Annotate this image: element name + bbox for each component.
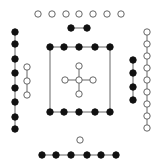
white-dot <box>144 53 150 59</box>
black-dot <box>12 56 18 62</box>
black-dot <box>12 85 18 91</box>
black-dot <box>12 29 18 35</box>
white-dot <box>24 64 30 70</box>
black-dot <box>39 152 45 158</box>
black-dot <box>12 41 18 47</box>
black-dot <box>130 84 136 90</box>
white-dot <box>35 11 41 17</box>
black-dot <box>107 109 113 115</box>
white-dot <box>76 63 82 69</box>
white-dot <box>24 92 30 98</box>
black-dot <box>68 152 74 158</box>
black-dot <box>61 44 67 50</box>
white-dot <box>63 11 69 17</box>
white-dot <box>144 89 150 95</box>
white-dot <box>144 77 150 83</box>
black-dot <box>92 109 98 115</box>
white-dot <box>76 11 82 17</box>
white-dot <box>77 137 83 143</box>
black-dot <box>130 70 136 76</box>
black-dot <box>84 152 90 158</box>
black-dot <box>12 70 18 76</box>
white-dot <box>144 113 150 119</box>
white-dot <box>90 11 96 17</box>
white-dot <box>49 11 55 17</box>
black-dot <box>68 25 74 31</box>
white-dot <box>144 29 150 35</box>
black-dot <box>130 97 136 103</box>
white-dot <box>62 77 68 83</box>
black-dot <box>84 25 90 31</box>
black-dot <box>107 44 113 50</box>
white-dot <box>104 11 110 17</box>
black-dot <box>76 109 82 115</box>
black-dot <box>47 109 53 115</box>
black-dot <box>12 126 18 132</box>
dot-groups <box>12 11 150 158</box>
white-dot <box>118 11 124 17</box>
white-dot <box>76 91 82 97</box>
white-dot <box>144 41 150 47</box>
white-dot <box>24 78 30 84</box>
black-dot <box>113 152 119 158</box>
white-dot <box>90 77 96 83</box>
white-dot <box>76 77 82 83</box>
black-dot <box>76 44 82 50</box>
black-dot <box>61 109 67 115</box>
black-dot <box>92 44 98 50</box>
black-dot <box>53 152 59 158</box>
black-dot <box>12 99 18 105</box>
white-dot <box>144 65 150 71</box>
black-dot <box>47 44 53 50</box>
white-dot <box>144 125 150 131</box>
white-dot <box>144 101 150 107</box>
he-tu-diagram: He Tu (River Chart) <box>0 0 162 168</box>
black-dot <box>130 57 136 63</box>
black-dot <box>98 152 104 158</box>
black-dot <box>12 114 18 120</box>
